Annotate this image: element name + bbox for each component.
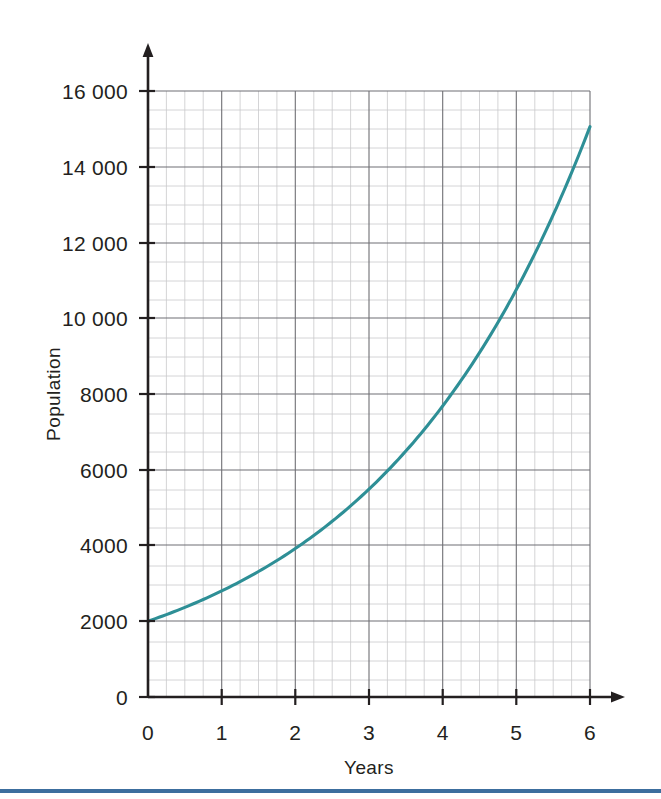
x-tick-label-1: 1 xyxy=(216,721,228,744)
y-axis-title: Population xyxy=(43,347,64,441)
y-tick-label-10000: 10 000 xyxy=(62,307,128,330)
x-tick-label-2: 2 xyxy=(289,721,301,744)
y-tick-label-4000: 4000 xyxy=(80,534,128,557)
x-tick-label-0: 0 xyxy=(142,721,154,744)
y-tick-label-16000: 16 000 xyxy=(62,80,128,103)
y-tick-label-2000: 2000 xyxy=(80,610,128,633)
bottom-divider-rule xyxy=(0,789,661,793)
population-growth-chart: 16 000 14 000 12 000 10 000 8000 6000 40… xyxy=(0,0,661,799)
x-tick-label-5: 5 xyxy=(510,721,522,744)
y-tick-label-0: 0 xyxy=(116,686,128,709)
x-axis-title: Years xyxy=(344,757,394,778)
y-tick-label-14000: 14 000 xyxy=(62,156,128,179)
x-tick-label-3: 3 xyxy=(363,721,375,744)
y-tick-label-12000: 12 000 xyxy=(62,232,128,255)
x-tick-label-6: 6 xyxy=(584,721,596,744)
y-tick-label-8000: 8000 xyxy=(80,383,128,406)
population-growth-figure: 16 000 14 000 12 000 10 000 8000 6000 40… xyxy=(0,0,661,799)
y-tick-label-6000: 6000 xyxy=(80,459,128,482)
x-tick-label-4: 4 xyxy=(437,721,449,744)
